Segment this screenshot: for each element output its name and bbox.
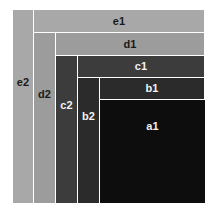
block-d2: d2 <box>34 33 56 203</box>
block-label-e2: e2 <box>17 77 30 88</box>
block-c1: c1 <box>78 56 205 78</box>
block-c2: c2 <box>56 56 78 203</box>
block-d1: d1 <box>56 33 205 56</box>
block-b2: b2 <box>78 78 100 203</box>
block-e1: e1 <box>34 10 205 33</box>
block-e2: e2 <box>13 10 34 203</box>
block-a1: a1 <box>100 100 205 203</box>
block-label-d2: d2 <box>38 89 51 100</box>
block-label-b1: b1 <box>145 83 158 94</box>
block-label-c2: c2 <box>60 100 73 111</box>
figure-root: e1 e2 d1 d2 c1 c2 b1 b2 a1 <box>0 0 215 214</box>
block-label-b2: b2 <box>82 111 95 122</box>
block-label-c1: c1 <box>135 61 148 72</box>
block-label-e1: e1 <box>113 16 126 27</box>
block-label-d1: d1 <box>123 39 136 50</box>
block-b1: b1 <box>100 78 205 100</box>
block-label-a1: a1 <box>146 121 159 132</box>
